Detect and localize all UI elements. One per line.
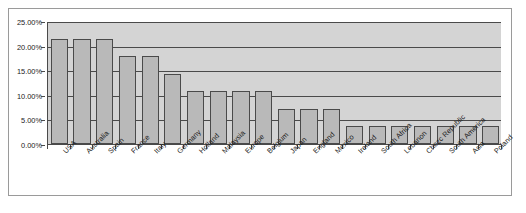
bar-slot <box>93 22 116 144</box>
bar[interactable] <box>73 39 90 144</box>
y-tick-label: 25.00% <box>17 18 42 27</box>
bar-slot <box>230 22 253 144</box>
y-tick-mark <box>41 22 45 23</box>
bar-slot <box>343 22 366 144</box>
bar-slot <box>48 22 71 144</box>
y-tick-mark <box>41 120 45 121</box>
y-tick-label: 5.00% <box>21 116 42 125</box>
y-tick-mark <box>41 145 45 146</box>
bar-slot <box>139 22 162 144</box>
bar-slot <box>298 22 321 144</box>
bar-slot <box>162 22 185 144</box>
bar-slot <box>252 22 275 144</box>
bar[interactable] <box>119 56 136 144</box>
plot-area <box>47 22 501 145</box>
y-tick-mark <box>41 71 45 72</box>
bar-slot <box>275 22 298 144</box>
y-tick-mark <box>41 47 45 48</box>
bar-slot <box>184 22 207 144</box>
x-axis-labels: USAAustraliaSpainFranceItalyGermanyHolla… <box>47 149 501 197</box>
bar[interactable] <box>142 56 159 144</box>
bars-layer <box>48 22 501 144</box>
y-tick-label: 20.00% <box>17 42 42 51</box>
bar[interactable] <box>51 39 68 144</box>
bar-slot <box>411 22 434 144</box>
bar-slot <box>366 22 389 144</box>
y-axis: 0.00%5.00%10.00%15.00%20.00%25.00% <box>9 17 45 150</box>
bar[interactable] <box>482 126 499 144</box>
bar[interactable] <box>164 74 181 144</box>
bar-slot <box>207 22 230 144</box>
bar-slot <box>71 22 94 144</box>
chart-frame: 0.00%5.00%10.00%15.00%20.00%25.00% USAAu… <box>8 8 512 196</box>
y-tick-label: 15.00% <box>17 67 42 76</box>
bar-slot <box>320 22 343 144</box>
y-tick-mark <box>41 96 45 97</box>
bar-slot <box>116 22 139 144</box>
y-tick-label: 10.00% <box>17 91 42 100</box>
y-tick-label: 0.00% <box>21 141 42 150</box>
